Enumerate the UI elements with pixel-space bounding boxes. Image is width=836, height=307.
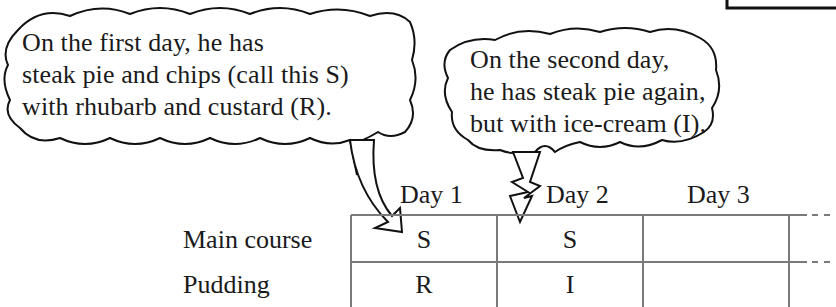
cell-main-day-1: S: [354, 225, 494, 255]
cell-main-day-2: S: [500, 225, 640, 255]
bubble-1-line-3: with rhubarb and custard (R).: [22, 91, 332, 122]
cell-pudding-day-1: R: [354, 270, 494, 300]
bubble-1-line-1: On the first day, he has: [22, 27, 264, 58]
partial-box-edge: [727, 0, 836, 8]
speech-bubble-2-tail: [510, 152, 540, 222]
bubble-2-line-1: On the second day,: [470, 44, 669, 75]
bubble-2-line-3: but with ice-cream (I).: [470, 108, 706, 139]
column-header-day-1: Day 1: [400, 180, 463, 210]
bubble-2-line-2: he has steak pie again,: [470, 76, 706, 107]
bubble-1-line-2: steak pie and chips (call this S): [22, 59, 349, 90]
column-header-day-2: Day 2: [546, 180, 609, 210]
row-label-main-course: Main course: [183, 225, 312, 255]
cell-pudding-day-2: I: [500, 270, 640, 300]
column-header-day-3: Day 3: [687, 180, 750, 210]
row-label-pudding: Pudding: [183, 270, 270, 300]
speech-bubble-1-tail: [350, 140, 402, 232]
